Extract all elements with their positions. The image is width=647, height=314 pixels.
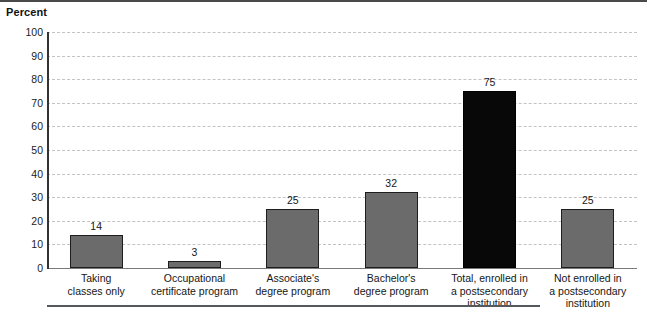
bar-value-label: 3 bbox=[192, 246, 198, 258]
y-axis-title: Percent bbox=[6, 6, 47, 18]
bar-value-label: 14 bbox=[90, 220, 102, 232]
y-axis-tick-label: 50 bbox=[3, 144, 43, 156]
bar-value-label: 25 bbox=[287, 194, 299, 206]
y-axis-tick-label: 0 bbox=[3, 262, 43, 274]
bar-value-label: 75 bbox=[484, 76, 496, 88]
plot-area: 010203040506070809010014325327525 bbox=[47, 32, 637, 268]
gridline bbox=[47, 126, 637, 127]
x-axis-category-label: Bachelor's degree program bbox=[344, 272, 438, 297]
bar[interactable] bbox=[168, 261, 221, 268]
x-axis-category-label: Not enrolled in a postsecondary institut… bbox=[541, 272, 635, 310]
bar[interactable] bbox=[463, 91, 516, 268]
y-axis-tick-label: 90 bbox=[3, 50, 43, 62]
y-axis-tick-label: 30 bbox=[3, 191, 43, 203]
bar[interactable] bbox=[561, 209, 614, 268]
bottom-rule bbox=[47, 305, 540, 307]
y-axis-tick-label: 60 bbox=[3, 120, 43, 132]
x-axis-category-label: Taking classes only bbox=[49, 272, 143, 297]
gridline bbox=[47, 56, 637, 57]
y-axis-tick-label: 100 bbox=[3, 26, 43, 38]
x-axis-category-label: Occupational certificate program bbox=[147, 272, 241, 297]
gridline bbox=[47, 197, 637, 198]
bar[interactable] bbox=[266, 209, 319, 268]
gridline bbox=[47, 174, 637, 175]
y-axis-tick-label: 40 bbox=[3, 168, 43, 180]
y-axis-tick-label: 80 bbox=[3, 73, 43, 85]
gridline bbox=[47, 103, 637, 104]
x-axis-category-label: Total, enrolled in a postsecondary insti… bbox=[442, 272, 536, 310]
gridline bbox=[47, 150, 637, 151]
gridline bbox=[47, 79, 637, 80]
x-axis-category-labels: Taking classes onlyOccupational certific… bbox=[47, 272, 637, 314]
gridline bbox=[47, 32, 637, 33]
bar-chart: Percent 01020304050607080901001432532752… bbox=[0, 0, 647, 314]
bar-value-label: 25 bbox=[582, 194, 594, 206]
x-axis-category-label: Associate's degree program bbox=[246, 272, 340, 297]
y-axis-tick-label: 70 bbox=[3, 97, 43, 109]
bar[interactable] bbox=[365, 192, 418, 268]
y-axis-tick-label: 20 bbox=[3, 215, 43, 227]
y-axis-tick-label: 10 bbox=[3, 238, 43, 250]
bar[interactable] bbox=[70, 235, 123, 268]
gridline bbox=[47, 221, 637, 222]
x-axis-baseline bbox=[47, 268, 637, 269]
y-axis-line bbox=[47, 32, 49, 269]
gridline bbox=[47, 244, 637, 245]
bar-value-label: 32 bbox=[385, 177, 397, 189]
